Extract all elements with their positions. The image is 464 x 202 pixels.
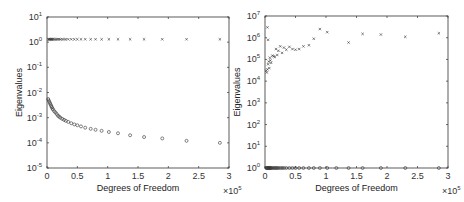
y-axis-label: Eigenvalues (14, 67, 24, 117)
x-tick-label: 1.5 (350, 171, 363, 181)
y-tick-label: 103 (247, 97, 261, 108)
y-tick-label: 105 (247, 53, 261, 64)
y-tick-label: 104 (247, 75, 261, 86)
y-tick-label: 10-4 (27, 137, 43, 148)
x-tick-label: 2.5 (411, 171, 424, 181)
series-x (265, 26, 440, 74)
chart-panel-1: 00.511.522.5310-510-410-310-210-1100101D… (14, 11, 242, 196)
x-axis-label: Degrees of Freedom (97, 183, 180, 193)
figure: 00.511.522.5310-510-410-310-210-1100101D… (0, 0, 464, 202)
x-axis-label: Degrees of Freedom (315, 183, 398, 193)
x-tick-label: 2 (166, 171, 171, 181)
x-multiplier: ×105 (442, 185, 461, 196)
x-tick-label: 0 (262, 171, 267, 181)
y-tick-label: 10-3 (27, 112, 43, 123)
x-tick-label: 3 (226, 171, 231, 181)
y-tick-label: 106 (247, 32, 261, 43)
x-tick-label: 0.5 (71, 171, 84, 181)
y-tick-label: 107 (247, 10, 261, 21)
y-axis-label: Eigenvalues (232, 67, 242, 117)
x-tick-label: 1 (105, 171, 110, 181)
x-tick-label: 1 (323, 171, 328, 181)
series-x (47, 38, 221, 40)
x-tick-label: 0.5 (289, 171, 302, 181)
y-tick-label: 101 (29, 11, 43, 22)
x-tick-label: 1.5 (132, 171, 145, 181)
y-tick-label: 10-2 (27, 87, 43, 98)
x-tick-label: 0 (44, 171, 49, 181)
y-tick-label: 101 (247, 140, 261, 151)
y-tick-label: 10-5 (27, 162, 43, 173)
axes-frame (265, 16, 448, 168)
x-multiplier: ×105 (223, 185, 242, 196)
x-tick-label: 2.5 (192, 171, 205, 181)
series-o (47, 98, 222, 145)
chart-panel-2: 00.511.522.53100101102103104105106107Deg… (232, 10, 461, 196)
y-tick-label: 102 (247, 119, 261, 130)
x-tick-label: 3 (445, 171, 450, 181)
y-tick-label: 100 (247, 162, 261, 173)
y-tick-label: 100 (29, 36, 43, 47)
x-tick-label: 2 (384, 171, 389, 181)
y-tick-label: 10-1 (27, 61, 43, 72)
